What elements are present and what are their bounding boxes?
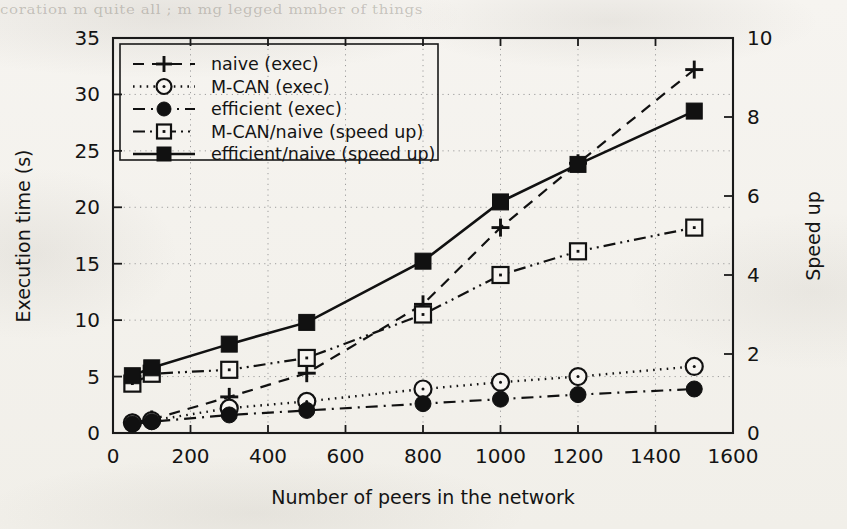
secondary-y-axis-tick-labels: 0246810 [747, 26, 772, 445]
y-tick-label: 30 [75, 82, 100, 106]
y2-tick-label: 8 [747, 105, 760, 129]
series-1 [124, 358, 703, 431]
y2-tick-label: 6 [747, 184, 760, 208]
legend-label: efficient (exec) [211, 99, 342, 119]
marker-circle-filled [415, 396, 431, 412]
x-tick-label: 800 [404, 444, 442, 468]
marker-circle-open [570, 368, 587, 385]
marker-square-open [157, 125, 171, 139]
legend-label: efficient/naive (speed up) [211, 144, 435, 164]
marker-square-filled [493, 194, 509, 210]
marker-square-open [493, 267, 509, 283]
marker-plus [492, 219, 510, 237]
y-tick-label: 15 [75, 252, 100, 276]
y-tick-label: 20 [75, 195, 100, 219]
y-tick-label: 25 [75, 139, 100, 163]
y-tick-label: 0 [87, 421, 100, 445]
legend-entry-0: naive (exec) [133, 54, 319, 74]
line-chart: 02004006008001000120014001600 0510152025… [0, 0, 847, 529]
chart-legend: naive (exec)M-CAN (exec)efficient (exec)… [120, 44, 438, 164]
y2-tick-label: 4 [747, 263, 760, 287]
x-tick-label: 1000 [475, 444, 526, 468]
marker-square-open [221, 362, 237, 378]
x-tick-label: 0 [107, 444, 120, 468]
marker-square-filled [299, 314, 315, 330]
marker-circle-open [492, 374, 509, 391]
marker-circle-filled [124, 416, 140, 432]
legend-label: naive (exec) [211, 54, 319, 74]
y-tick-label: 35 [75, 26, 100, 50]
y-tick-label: 5 [87, 365, 100, 389]
gridlines [113, 38, 733, 433]
marker-square-open [415, 307, 431, 323]
y2-tick-label: 2 [747, 342, 760, 366]
x-axis-title: Number of peers in the network [271, 486, 575, 508]
y2-tick-label: 10 [747, 26, 772, 50]
x-tick-label: 1400 [630, 444, 681, 468]
marker-square-filled [124, 368, 140, 384]
marker-circle-filled [686, 381, 702, 397]
series-line [132, 228, 694, 384]
marker-circle-open [157, 79, 172, 94]
chart-figure: 02004006008001000120014001600 0510152025… [0, 0, 847, 529]
series-line [132, 366, 694, 422]
x-tick-label: 600 [326, 444, 364, 468]
legend-label: M-CAN (exec) [211, 77, 330, 97]
marker-square-filled [157, 147, 171, 161]
x-tick-label: 1600 [708, 444, 759, 468]
secondary-y-axis-title: Speed up [802, 191, 824, 281]
marker-circle-open [686, 358, 703, 375]
marker-circle-filled [144, 414, 160, 430]
x-tick-label: 400 [249, 444, 287, 468]
marker-square-filled [570, 156, 586, 172]
x-tick-label: 1200 [553, 444, 604, 468]
marker-square-filled [686, 103, 702, 119]
series-line [132, 389, 694, 424]
x-tick-label: 200 [171, 444, 209, 468]
legend-label: M-CAN/naive (speed up) [211, 122, 423, 142]
marker-circle-filled [157, 102, 171, 116]
marker-square-open [299, 350, 315, 366]
legend-entry-3: M-CAN/naive (speed up) [133, 122, 423, 142]
legend-entries: naive (exec)M-CAN (exec)efficient (exec)… [133, 54, 435, 164]
marker-circle-filled [570, 387, 586, 403]
marker-square-open [570, 243, 586, 259]
series-3 [124, 220, 702, 392]
marker-circle-filled [299, 402, 315, 418]
marker-plus [156, 56, 172, 72]
series-2 [124, 381, 702, 432]
marker-square-filled [415, 253, 431, 269]
legend-entry-2: efficient (exec) [133, 99, 342, 119]
legend-entry-4: efficient/naive (speed up) [133, 144, 435, 164]
marker-circle-open [415, 380, 432, 397]
marker-circle-filled [493, 391, 509, 407]
y2-tick-label: 0 [747, 421, 760, 445]
marker-square-open [686, 220, 702, 236]
x-axis-tick-labels: 02004006008001000120014001600 [107, 444, 759, 468]
legend-entry-1: M-CAN (exec) [133, 77, 330, 97]
marker-square-filled [144, 360, 160, 376]
marker-square-filled [221, 336, 237, 352]
marker-circle-filled [221, 407, 237, 423]
y-axis-tick-labels: 05101520253035 [75, 26, 100, 445]
y-axis-title: Execution time (s) [12, 150, 34, 323]
y-tick-label: 10 [75, 308, 100, 332]
